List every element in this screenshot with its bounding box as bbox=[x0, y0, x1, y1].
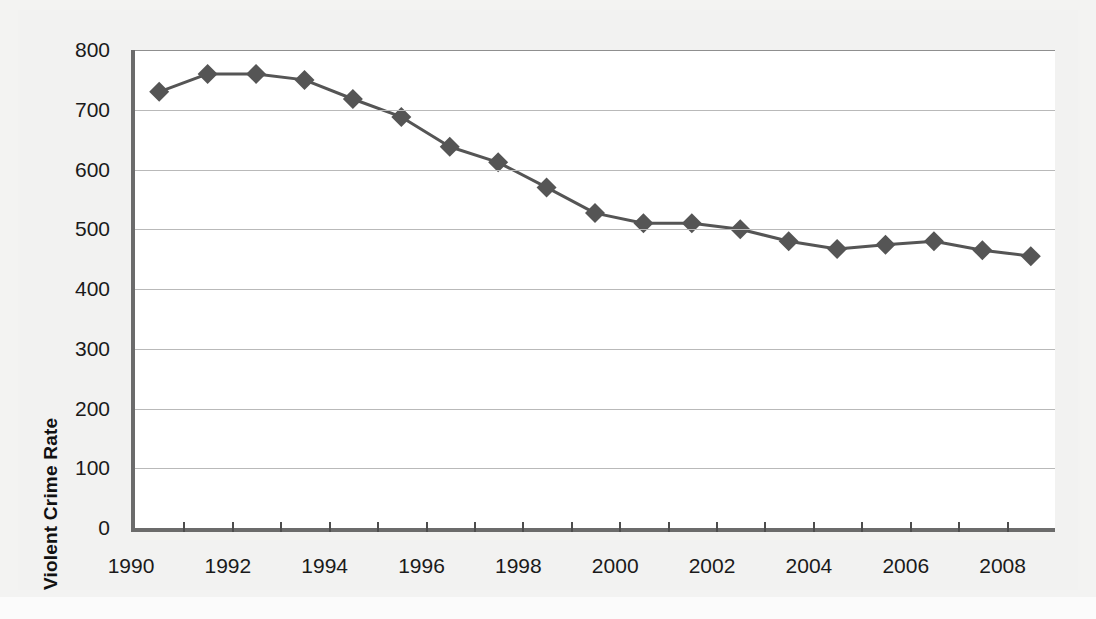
y-tick-500: 500 bbox=[40, 218, 110, 239]
x-tick-mark-1992 bbox=[232, 522, 234, 532]
y-tick-600: 600 bbox=[40, 159, 110, 180]
gridline-700 bbox=[135, 110, 1055, 111]
y-tick-800: 800 bbox=[40, 39, 110, 60]
data-point-2006 bbox=[924, 231, 944, 251]
x-tick-1998: 1998 bbox=[495, 555, 542, 576]
x-tick-mark-1999 bbox=[571, 522, 573, 532]
x-tick-mark-1994 bbox=[329, 522, 331, 532]
data-point-2008 bbox=[1021, 246, 1041, 266]
gridline-800 bbox=[135, 50, 1055, 51]
data-point-1996 bbox=[440, 137, 460, 157]
x-tick-mark-2001 bbox=[668, 522, 670, 532]
y-tick-400: 400 bbox=[40, 278, 110, 299]
plot-area bbox=[131, 50, 1055, 532]
chart-figure: Violent Crime Rate 800 700 600 500 400 3… bbox=[18, 10, 1078, 590]
data-point-1991 bbox=[198, 64, 218, 84]
y-tick-200: 200 bbox=[40, 398, 110, 419]
x-tick-mark-1995 bbox=[377, 522, 379, 532]
x-tick-2000: 2000 bbox=[592, 555, 639, 576]
x-tick-mark-2000 bbox=[619, 522, 621, 532]
chart-inner: Violent Crime Rate 800 700 600 500 400 3… bbox=[18, 10, 1078, 590]
x-tick-mark-2008 bbox=[1007, 522, 1009, 532]
data-point-2001 bbox=[682, 213, 702, 233]
data-point-1994 bbox=[343, 89, 363, 109]
gridline-600 bbox=[135, 170, 1055, 171]
x-tick-mark-1997 bbox=[474, 522, 476, 532]
gridline-200 bbox=[135, 409, 1055, 410]
x-tick-mark-2003 bbox=[764, 522, 766, 532]
x-tick-1990: 1990 bbox=[108, 555, 155, 576]
gridline-500 bbox=[135, 229, 1055, 230]
y-tick-700: 700 bbox=[40, 99, 110, 120]
gridline-100 bbox=[135, 468, 1055, 469]
page-background-bottom bbox=[0, 597, 1096, 619]
x-tick-mark-2002 bbox=[716, 522, 718, 532]
x-tick-mark-1996 bbox=[426, 522, 428, 532]
data-point-2003 bbox=[779, 231, 799, 251]
x-tick-mark-1991 bbox=[183, 522, 185, 532]
y-axis-tick-labels: 800 700 600 500 400 300 200 100 0 bbox=[40, 50, 110, 528]
x-tick-1996: 1996 bbox=[398, 555, 445, 576]
y-tick-100: 100 bbox=[40, 457, 110, 478]
x-tick-1992: 1992 bbox=[204, 555, 251, 576]
data-point-1993 bbox=[294, 70, 314, 90]
x-tick-mark-2006 bbox=[910, 522, 912, 532]
data-point-2000 bbox=[633, 213, 653, 233]
data-point-1990 bbox=[149, 82, 169, 102]
data-point-1992 bbox=[246, 64, 266, 84]
data-point-2005 bbox=[876, 235, 896, 255]
x-axis-tick-labels: 1990199219941996199820002002200420062008 bbox=[131, 555, 1055, 585]
data-point-2004 bbox=[827, 239, 847, 259]
plot-surface bbox=[135, 50, 1055, 528]
x-tick-mark-1998 bbox=[522, 522, 524, 532]
x-tick-mark-2005 bbox=[861, 522, 863, 532]
y-tick-300: 300 bbox=[40, 338, 110, 359]
x-tick-2004: 2004 bbox=[786, 555, 833, 576]
chart-page: Violent Crime Rate 800 700 600 500 400 3… bbox=[0, 0, 1096, 619]
x-tick-mark-2004 bbox=[813, 522, 815, 532]
x-tick-mark-2007 bbox=[958, 522, 960, 532]
x-tick-1994: 1994 bbox=[301, 555, 348, 576]
x-tick-2006: 2006 bbox=[882, 555, 929, 576]
gridline-400 bbox=[135, 289, 1055, 290]
gridline-300 bbox=[135, 349, 1055, 350]
data-point-2007 bbox=[972, 240, 992, 260]
x-tick-2002: 2002 bbox=[689, 555, 736, 576]
y-tick-0: 0 bbox=[40, 517, 110, 538]
x-tick-mark-1993 bbox=[280, 522, 282, 532]
data-point-1998 bbox=[537, 177, 557, 197]
x-tick-2008: 2008 bbox=[979, 555, 1026, 576]
data-point-1999 bbox=[585, 203, 605, 223]
